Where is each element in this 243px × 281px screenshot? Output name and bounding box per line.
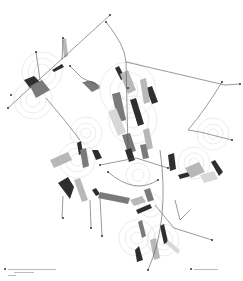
gray-shapes [24,38,223,262]
legend-caption-line [194,269,218,270]
diagram-canvas [0,0,243,281]
legend-left [4,268,56,277]
concentric-circles [14,52,229,256]
square-marker [190,268,192,270]
legend-caption-line [8,269,56,270]
legend-caption-line [14,272,34,273]
legend-caption-line [8,275,16,276]
legend-right [190,268,218,271]
